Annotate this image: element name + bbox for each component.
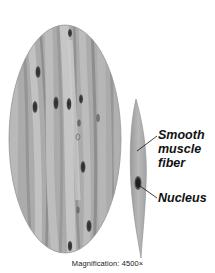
nucleus	[32, 101, 37, 113]
nucleus	[68, 241, 72, 251]
label-nucleus: Nucleus	[158, 191, 207, 205]
label-fiber-line1: Smooth	[158, 128, 205, 142]
label-fiber-line3: fiber	[158, 156, 205, 170]
nucleus	[86, 220, 91, 232]
nucleus	[35, 66, 40, 78]
magnification-caption: Magnification: 4500×	[0, 259, 215, 268]
label-smooth-muscle-fiber: Smooth muscle fiber	[158, 128, 205, 170]
tissue-section-oval	[9, 25, 121, 260]
nucleus	[53, 97, 58, 110]
nucleus	[81, 161, 86, 173]
smooth-muscle-fiber	[130, 99, 146, 258]
nucleus	[79, 95, 83, 104]
nucleus	[67, 98, 72, 110]
label-fiber-line2: muscle	[158, 142, 205, 156]
nucleus	[68, 29, 72, 37]
